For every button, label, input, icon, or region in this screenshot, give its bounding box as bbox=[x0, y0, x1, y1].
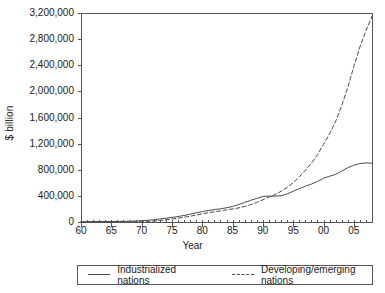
x-tick-label: 60 bbox=[75, 226, 86, 236]
legend-line-dashed-icon bbox=[232, 274, 254, 276]
x-tick-label: 90 bbox=[257, 226, 268, 236]
x-axis-tick-labels: 60657075808590950005 bbox=[0, 226, 385, 240]
y-tick-label: 1,600,000 bbox=[30, 113, 75, 123]
x-tick-label: 85 bbox=[227, 226, 238, 236]
series-line-industrialized bbox=[81, 163, 372, 222]
series-layer bbox=[81, 16, 372, 222]
y-tick-label: 1,200,000 bbox=[30, 139, 75, 149]
legend-item-industrialized: Industrialized nations bbox=[88, 264, 198, 286]
x-tick-label: 75 bbox=[166, 226, 177, 236]
x-tick-label: 70 bbox=[136, 226, 147, 236]
series-line-developing bbox=[81, 16, 372, 222]
y-tick-label: 800,000 bbox=[38, 165, 74, 175]
y-tick-label: 2,000,000 bbox=[30, 86, 75, 96]
legend-label-industrialized: Industrialized nations bbox=[117, 264, 197, 286]
x-tick-label: 05 bbox=[348, 226, 359, 236]
x-tick-label: 65 bbox=[106, 226, 117, 236]
y-tick-label: 400,000 bbox=[38, 191, 74, 201]
x-axis-label: Year bbox=[0, 240, 385, 251]
legend-label-developing: Developing/emerging nations bbox=[261, 264, 372, 286]
y-tick-label: 2,800,000 bbox=[30, 34, 75, 44]
y-tick-label: 2,400,000 bbox=[30, 60, 75, 70]
chart-figure: $ billion 0400,000800,0001,200,0001,600,… bbox=[0, 0, 385, 293]
axes-layer bbox=[78, 14, 373, 227]
x-tick-label: 80 bbox=[197, 226, 208, 236]
legend-line-solid-icon bbox=[88, 274, 110, 276]
x-tick-label: 00 bbox=[318, 226, 329, 236]
legend-item-developing: Developing/emerging nations bbox=[232, 264, 372, 286]
y-axis-tick-labels: 0400,000800,0001,200,0001,600,0002,000,0… bbox=[0, 0, 74, 240]
chart-legend: Industrialized nations Developing/emergi… bbox=[77, 265, 373, 285]
x-tick-label: 95 bbox=[288, 226, 299, 236]
y-tick-label: 3,200,000 bbox=[30, 8, 75, 18]
